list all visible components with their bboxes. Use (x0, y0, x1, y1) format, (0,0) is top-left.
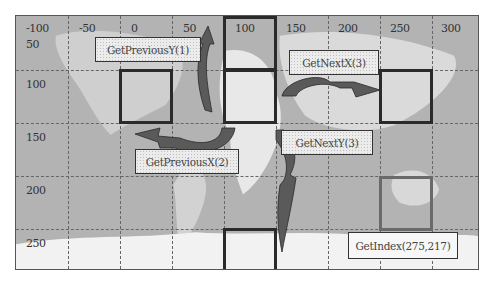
label-get-next-x: GetNextX(3) (289, 50, 379, 75)
label-get-previous-x: GetPreviousX(2) (135, 149, 239, 174)
x-tick: 250 (390, 22, 410, 35)
x-tick: -100 (26, 22, 49, 35)
y-tick: 100 (26, 78, 46, 91)
x-tick: 200 (338, 22, 358, 35)
y-tick: 150 (26, 131, 46, 144)
highlighted-cell-next-y (223, 228, 277, 270)
highlighted-cell-previous-y (119, 69, 173, 124)
y-tick: 200 (26, 184, 46, 197)
x-tick: -50 (79, 22, 95, 35)
y-tick: 50 (26, 38, 39, 51)
highlighted-cell-top (223, 16, 277, 71)
highlighted-cell-index (379, 176, 433, 231)
x-tick: 50 (183, 22, 196, 35)
x-tick: 150 (286, 22, 306, 35)
x-tick: 0 (131, 22, 138, 35)
label-get-next-y: GetNextY(3) (281, 130, 373, 155)
label-get-previous-y: GetPreviousY(1) (95, 37, 201, 62)
y-tick: 250 (26, 237, 46, 250)
highlighted-cell-next-x (379, 69, 433, 124)
label-get-index: GetIndex(275,217) (348, 232, 458, 259)
highlighted-cell-center (223, 69, 277, 124)
grid-line-vertical (68, 16, 69, 269)
x-tick: 300 (441, 22, 461, 35)
